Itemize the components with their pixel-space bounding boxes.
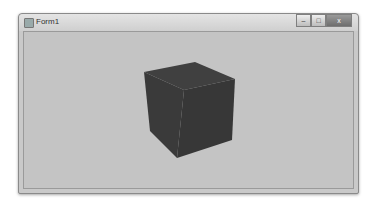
close-button[interactable]: x bbox=[326, 14, 352, 27]
app-icon[interactable] bbox=[24, 18, 34, 28]
cube-right-face bbox=[177, 79, 235, 158]
window-controls: – □ x bbox=[296, 14, 352, 26]
minimize-button[interactable]: – bbox=[296, 14, 311, 27]
cube-render bbox=[24, 32, 354, 189]
form-window: Form1 – □ x bbox=[18, 13, 359, 194]
window-title: Form1 bbox=[36, 17, 59, 26]
render-canvas[interactable] bbox=[23, 31, 354, 189]
title-bar[interactable]: Form1 – □ x bbox=[19, 14, 358, 31]
maximize-button[interactable]: □ bbox=[311, 14, 326, 27]
